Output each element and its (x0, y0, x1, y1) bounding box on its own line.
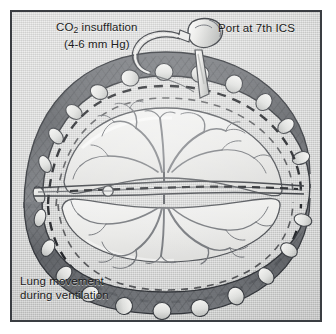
label-co2-line2: (4-6 mm Hg) (56, 37, 138, 51)
label-co2-line1: CO2 insufflation (56, 21, 138, 33)
label-lung-movement: Lung movement during ventilation (20, 274, 109, 302)
label-co2-insufflation: CO2 insufflation (4-6 mm Hg) (56, 20, 138, 51)
figure-root: CO2 insufflation (4-6 mm Hg) Port at 7th… (0, 0, 336, 334)
illustration-plate: CO2 insufflation (4-6 mm Hg) Port at 7th… (10, 10, 322, 322)
label-lung-line1: Lung movement (20, 275, 104, 287)
label-port-site: Port at 7th ICS (218, 21, 295, 35)
lung-lower-lobe (62, 198, 280, 262)
label-lung-line2: during ventilation (20, 288, 109, 302)
